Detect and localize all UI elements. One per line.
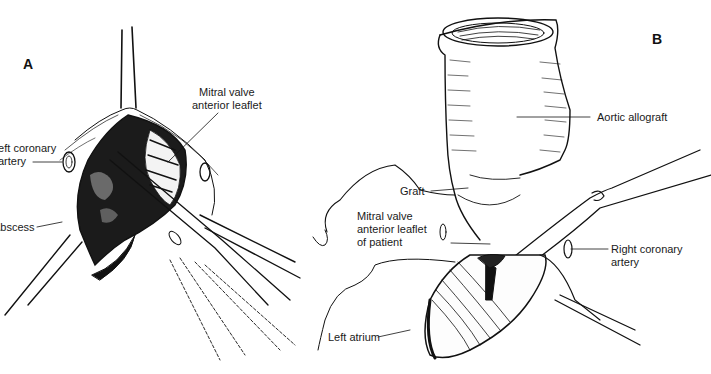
panel-b-letter: B [652,31,662,47]
label-aortic-allograft: Aortic allograft [597,111,667,124]
label-mitral-valve-anterior-leaflet-of-patient: Mitral valve anterior leaflet of patient [357,210,427,249]
panel-a-letter: A [23,56,33,72]
label-line: Mitral valve [357,210,427,223]
label-right-coronary-artery: Right coronary artery [611,243,683,269]
label-line: Right coronary [611,243,683,256]
label-graft: Graft [400,185,424,198]
label-line: Mitral valve [192,86,262,99]
panel-b-drawing [313,18,711,358]
label-left-atrium: Left atrium [328,331,380,344]
label-line: artery [0,155,56,168]
label-line: Left coronary [0,142,56,155]
panel-a-drawing [5,27,300,360]
label-left-coronary-artery: Left coronary artery [0,142,56,168]
label-abscess: Abscess [0,221,35,234]
label-line: artery [611,256,683,269]
label-line: of patient [357,236,427,249]
surgical-illustration: A Mitral valve anterior leaflet Left cor… [0,0,711,374]
label-line: anterior leaflet [192,99,262,112]
label-line: anterior leaflet [357,223,427,236]
illustration-artwork [0,0,711,374]
label-mitral-valve-anterior-leaflet-a: Mitral valve anterior leaflet [192,86,262,112]
